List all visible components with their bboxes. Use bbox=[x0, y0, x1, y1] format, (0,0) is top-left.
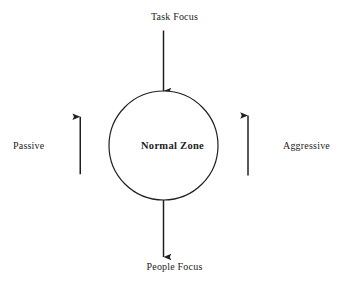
axis-label-task-focus: Task Focus bbox=[0, 11, 343, 23]
diagram-canvas: Task Focus Aggressive People Focus Passi… bbox=[0, 0, 343, 281]
center-label-normal-zone: Normal Zone bbox=[0, 140, 343, 152]
axis-label-people-focus: People Focus bbox=[0, 261, 343, 273]
